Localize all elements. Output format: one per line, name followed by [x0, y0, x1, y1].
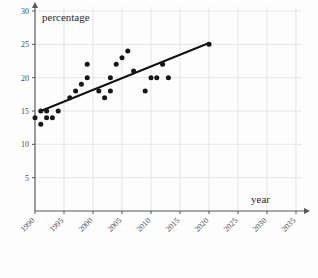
data-point	[79, 82, 84, 87]
x-tick-label: 2015	[164, 216, 182, 234]
data-point	[120, 55, 125, 60]
data-point	[166, 75, 171, 80]
data-point	[56, 109, 61, 114]
axes	[32, 2, 310, 214]
data-point	[44, 109, 49, 114]
data-point	[108, 75, 113, 80]
trend-line-group	[41, 43, 209, 111]
scatter-chart: 51015202530 1990199520002005201020152020…	[0, 0, 318, 278]
x-tick-label: 2035	[280, 216, 298, 234]
data-point	[154, 75, 159, 80]
data-point	[85, 62, 90, 67]
y-tick-label: 5	[25, 174, 29, 183]
data-point	[67, 95, 72, 100]
horizontal-gridlines	[35, 11, 302, 178]
y-axis-arrowhead	[32, 2, 38, 8]
x-axis-title: year	[251, 193, 270, 205]
x-axis-ticks: 1990199520002005201020152020202520302035	[19, 211, 298, 234]
plot-area: 51015202530 1990199520002005201020152020…	[0, 0, 318, 278]
y-tick-label: 30	[21, 7, 29, 16]
y-tick-label: 25	[21, 40, 29, 49]
y-axis-title: percentage	[42, 11, 90, 23]
x-axis-arrowhead	[304, 208, 310, 214]
x-tick-label: 1990	[19, 216, 37, 234]
data-point	[33, 115, 38, 120]
data-point	[38, 109, 43, 114]
data-point	[149, 75, 154, 80]
data-point	[143, 89, 148, 94]
x-tick-label: 2005	[106, 216, 124, 234]
y-axis-ticks: 51015202530	[21, 7, 35, 183]
data-point	[114, 62, 119, 67]
data-point	[207, 42, 212, 47]
vertical-gridlines	[35, 7, 296, 211]
y-tick-label: 10	[21, 140, 29, 149]
data-point	[73, 89, 78, 94]
trend-line	[41, 43, 209, 111]
data-point	[108, 89, 113, 94]
x-tick-label: 2010	[135, 216, 153, 234]
x-tick-label: 2000	[77, 216, 95, 234]
data-point	[50, 115, 55, 120]
data-point	[125, 49, 130, 54]
x-tick-label: 2025	[222, 216, 240, 234]
y-tick-label: 15	[21, 107, 29, 116]
y-tick-label: 20	[21, 74, 29, 83]
data-point	[96, 89, 101, 94]
data-point	[44, 115, 49, 120]
data-point	[85, 75, 90, 80]
data-point	[160, 62, 165, 67]
x-tick-label: 2020	[193, 216, 211, 234]
x-tick-label: 1995	[48, 216, 66, 234]
x-tick-label: 2030	[251, 216, 269, 234]
data-point	[38, 122, 43, 127]
data-point	[102, 95, 107, 100]
data-point	[131, 69, 136, 74]
